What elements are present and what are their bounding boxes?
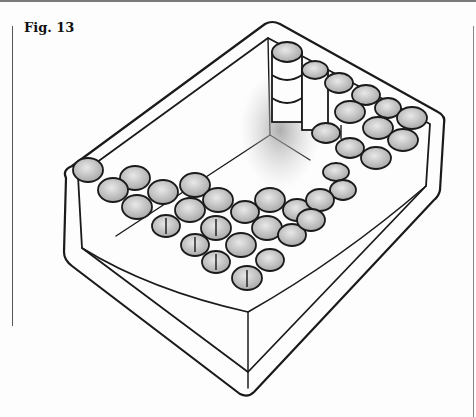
figure-page: Fig. 13	[0, 0, 476, 417]
box-illustration	[0, 0, 476, 417]
